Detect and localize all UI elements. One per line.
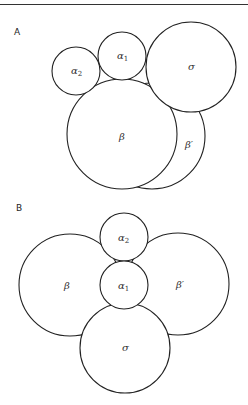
label-a-beta: β bbox=[118, 131, 125, 142]
label-b-beta: β bbox=[63, 280, 70, 291]
panel-b-label: B bbox=[16, 203, 22, 213]
label-b-sigma: σ bbox=[122, 342, 130, 353]
label-a-sigma: σ bbox=[188, 61, 196, 72]
circle-packing-diagram: A β′ β α2 α1 σ B β β′ σ α2 α1 bbox=[0, 0, 248, 405]
panel-b: B β β′ σ α2 α1 bbox=[16, 203, 229, 393]
panel-a-label: A bbox=[14, 27, 21, 37]
label-b-beta-prime: β′ bbox=[175, 279, 185, 290]
label-a-beta-prime: β′ bbox=[184, 139, 194, 150]
panel-a: A β′ β α2 α1 σ bbox=[14, 22, 236, 189]
